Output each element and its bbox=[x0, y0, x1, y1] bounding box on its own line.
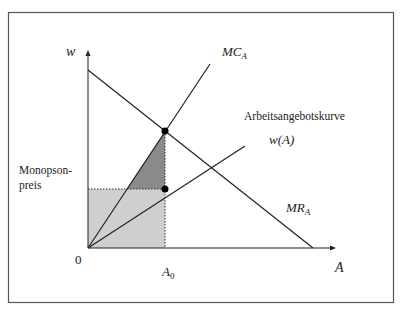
monopsony-price-label-line2: preis bbox=[19, 179, 42, 192]
quantity-label-subscript: 0 bbox=[170, 271, 175, 281]
supply-curve-label: w(A) bbox=[269, 132, 294, 147]
x-axis-label: A bbox=[334, 260, 344, 275]
origin-label: 0 bbox=[75, 252, 82, 267]
mc-mr-intersection-point bbox=[162, 128, 169, 135]
wage-bill-area bbox=[88, 189, 165, 248]
quantity-label-main: A bbox=[161, 264, 170, 279]
mc-label-main: MC bbox=[221, 44, 242, 59]
monopsony-price-label-line1: Monopson- bbox=[19, 164, 72, 177]
monopsony-diagram: w A 0 MCA Arbeitsangebotskurve w(A) MRA … bbox=[0, 0, 403, 314]
mr-label-main: MR bbox=[285, 200, 305, 215]
y-axis-label: w bbox=[66, 44, 76, 59]
supply-curve-title: Arbeitsangebotskurve bbox=[244, 110, 345, 123]
mr-label-subscript: A bbox=[304, 207, 311, 217]
supply-point bbox=[162, 186, 169, 193]
mc-label-subscript: A bbox=[241, 51, 248, 61]
